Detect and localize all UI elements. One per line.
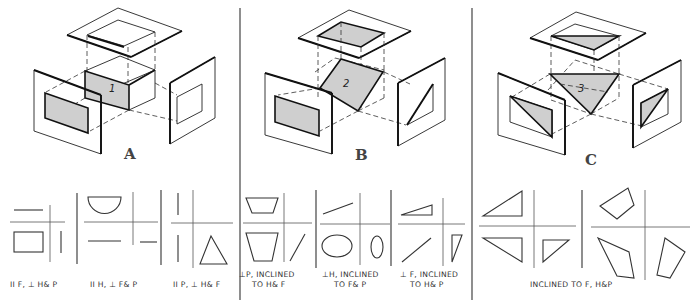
caption-a1: II F, ⊥ H& P xyxy=(10,280,57,289)
frontal-projection-c xyxy=(510,96,552,137)
view-a3 xyxy=(171,190,233,268)
caption-b3-line1: ⊥ F, INCLINED xyxy=(400,270,458,279)
caption-a2: II H, ⊥ F& P xyxy=(90,280,137,289)
caption-b3-line2: TO H& P xyxy=(409,280,444,289)
view-b3 xyxy=(398,198,465,266)
figure-c: 3 C xyxy=(498,12,681,169)
surface-3 xyxy=(550,74,619,114)
surface-number-1: 1 xyxy=(109,83,115,94)
surface-number-2: 2 xyxy=(343,78,349,89)
view-c1 xyxy=(479,190,576,268)
frontal-projection-a xyxy=(45,93,88,133)
view-a1 xyxy=(10,205,65,262)
caption-b2-line1: ⊥H, INCLINED xyxy=(322,270,379,279)
figure-label-c: C xyxy=(585,151,597,169)
view-a2 xyxy=(84,192,158,245)
frontal-projection-b xyxy=(275,96,319,136)
caption-b2-line2: TO F& P xyxy=(333,280,367,289)
view-c2 xyxy=(591,188,690,280)
horizontal-projection-b xyxy=(318,22,384,47)
caption-b1-line1: ⊥P, INCLINED xyxy=(239,270,295,279)
figure-a: 1 A xyxy=(34,8,215,163)
horizontal-plane-a xyxy=(67,8,182,57)
view-b2 xyxy=(320,193,390,265)
figure-b: 2 B xyxy=(265,10,445,164)
caption-b1-line2: TO H& F xyxy=(251,280,286,289)
projection-diagram: 1 A 2 xyxy=(0,0,700,301)
profile-projection-c xyxy=(641,89,668,127)
figure-label-a: A xyxy=(123,145,136,163)
surface-number-3: 3 xyxy=(578,83,584,94)
caption-a3: II P, ⊥ H& F xyxy=(173,280,220,289)
view-b1 xyxy=(243,193,312,262)
figure-label-b: B xyxy=(355,146,368,164)
caption-c: INCLINED TO F, H&P xyxy=(530,280,612,289)
